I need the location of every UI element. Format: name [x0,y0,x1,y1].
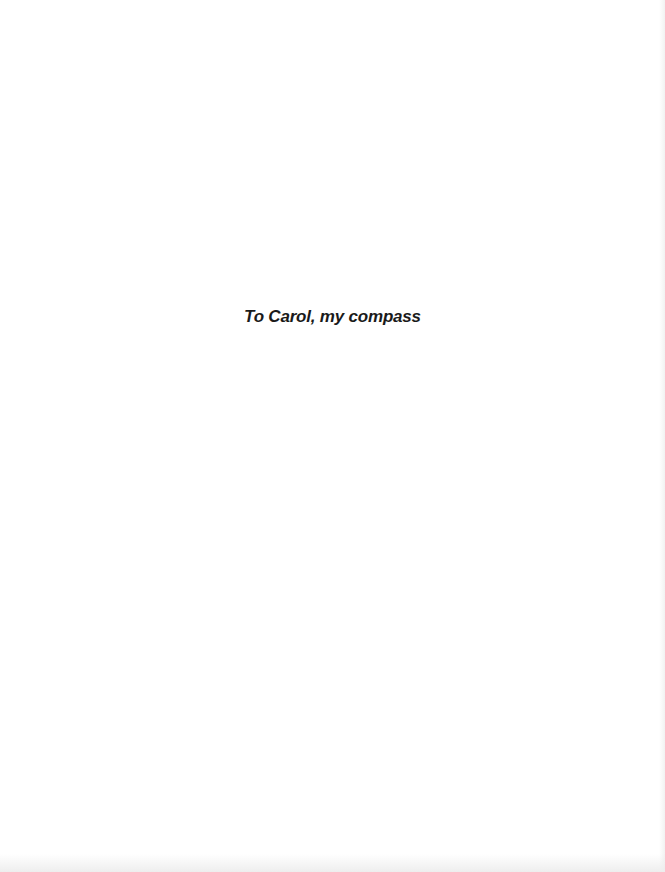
dedication-text: To Carol, my compass [0,307,665,327]
document-page: To Carol, my compass [0,0,665,872]
